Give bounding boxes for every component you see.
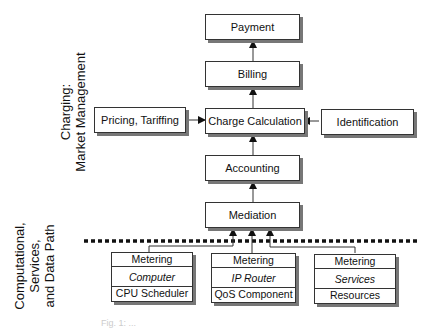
identification-box: Identification [321, 109, 414, 135]
mediation-label: Mediation [229, 209, 277, 221]
component-ip-router-metering: Metering [212, 254, 295, 268]
component-computer-name: Computer [112, 267, 192, 287]
component-services-name: Services [315, 269, 395, 289]
component-services-metering: Metering [315, 255, 395, 269]
component-ip-router-name: IP Router [212, 268, 295, 288]
component-computer-metering: Metering [112, 253, 192, 267]
billing-box: Billing [205, 61, 300, 87]
component-ip-router: Metering IP Router QoS Component [211, 253, 296, 303]
mediation-box: Mediation [205, 202, 300, 228]
pricing-tariffing-box: Pricing, Tariffing [94, 107, 186, 133]
component-services: Metering Services Resources [314, 254, 396, 304]
payment-label: Payment [231, 21, 274, 33]
charge-calculation-box: Charge Calculation [205, 108, 305, 134]
figure-caption: Fig. 1: ... [101, 318, 136, 328]
charge-calculation-label: Charge Calculation [208, 115, 302, 127]
identification-label: Identification [337, 116, 399, 128]
component-services-resources: Resources [315, 289, 395, 302]
component-computer: Metering Computer CPU Scheduler [111, 252, 193, 302]
pricing-tariffing-label: Pricing, Tariffing [101, 114, 179, 126]
component-computer-cpu-scheduler: CPU Scheduler [112, 287, 192, 300]
billing-label: Billing [238, 68, 267, 80]
payment-box: Payment [205, 14, 300, 40]
accounting-box: Accounting [205, 155, 300, 181]
accounting-label: Accounting [225, 162, 279, 174]
component-ip-router-qos: QoS Component [212, 288, 295, 301]
